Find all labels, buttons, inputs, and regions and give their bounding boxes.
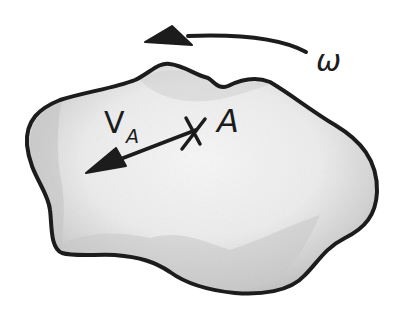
- velocity-label-main: V: [104, 105, 125, 140]
- rigid-body-diagram: ω A V A: [0, 0, 402, 312]
- rotation-arrowhead-icon: [145, 26, 192, 45]
- point-a-label: A: [215, 102, 239, 140]
- rigid-body-texture: [27, 64, 377, 294]
- rigid-body: [27, 64, 377, 294]
- velocity-label-subscript: A: [124, 125, 139, 147]
- rotation-arrow-shaft: [188, 36, 306, 52]
- omega-label: ω: [316, 43, 341, 78]
- diagram-canvas: ω A V A: [0, 0, 402, 312]
